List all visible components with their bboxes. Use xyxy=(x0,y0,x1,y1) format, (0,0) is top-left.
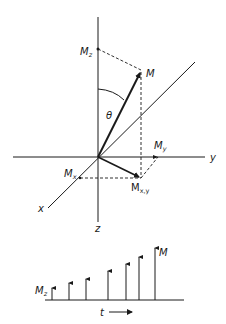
theta-arc xyxy=(98,89,124,100)
label-bottom-mz: Mz xyxy=(35,285,48,298)
label-my: My xyxy=(154,140,167,153)
label-mxy: Mx,y xyxy=(131,182,150,195)
mz-growth-arrows xyxy=(52,248,155,300)
mz-projection-dashed xyxy=(98,49,141,70)
label-y-axis: y xyxy=(209,152,217,163)
my-projection-dashed xyxy=(141,157,158,178)
label-time: t xyxy=(100,307,105,318)
magnetization-vector-diagram: Mz M θ Mx My Mx,y x y z Mz M t xyxy=(0,0,226,324)
label-theta: θ xyxy=(106,110,112,121)
label-m: M xyxy=(146,68,155,79)
label-mz: Mz xyxy=(80,46,93,59)
mz-point xyxy=(97,48,100,51)
label-x-axis: x xyxy=(37,203,44,214)
x-axis xyxy=(48,62,195,208)
mx-point xyxy=(79,177,82,180)
label-mx: Mx xyxy=(64,168,77,181)
label-z-axis: z xyxy=(94,223,101,234)
m-vector xyxy=(98,73,140,157)
mxy-vector xyxy=(98,157,139,177)
label-bottom-m: M xyxy=(159,247,168,258)
